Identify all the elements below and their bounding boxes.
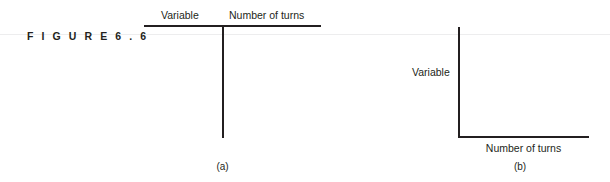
table-column-header-number-of-turns: Number of turns [229, 8, 304, 22]
table-column-divider [222, 26, 224, 138]
x-axis-line [458, 136, 589, 138]
figure-number-label: F I G U R E 6 . 6 [27, 30, 149, 43]
y-axis-label: Variable [412, 65, 450, 79]
figure-container: F I G U R E 6 . 6 Variable Number of tur… [0, 0, 610, 182]
panel-a-caption: (a) [0, 161, 445, 172]
table-header-rule [144, 25, 321, 27]
table-column-header-variable: Variable [161, 8, 199, 22]
x-axis-label: Number of turns [458, 141, 589, 155]
panel-b-caption: (b) [445, 161, 595, 172]
y-axis-line [458, 27, 460, 138]
